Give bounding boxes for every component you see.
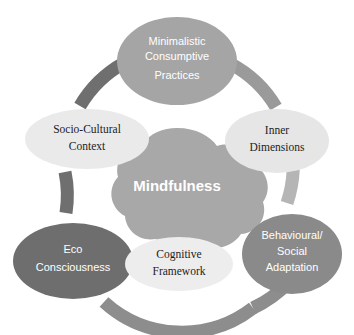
node-inner-dimensions[interactable]: Inner Dimensions xyxy=(225,109,329,173)
arc-top-left-segment xyxy=(80,63,124,106)
node-label-line-2: Context xyxy=(69,140,106,152)
node-ellipse xyxy=(25,109,149,169)
node-eco-consciousness[interactable]: Eco Consciousness xyxy=(13,223,133,299)
node-label-line-1: Inner xyxy=(265,124,289,136)
node-label-line-3: Practices xyxy=(154,69,200,81)
node-label-line-2: Consumptive xyxy=(145,50,209,62)
node-behavioural-social-adaptation[interactable]: Behavioural/ Social Adaptation xyxy=(242,214,342,294)
node-label-line-1: Cognitive xyxy=(156,248,201,261)
arc-top-right-segment xyxy=(231,64,276,107)
mindfulness-cycle-diagram: Mindfulness Minimalistic Consumptive Pra… xyxy=(0,0,354,335)
node-label-line-2: Framework xyxy=(152,265,205,277)
arc-left-segment xyxy=(65,172,67,213)
node-socio-cultural-context[interactable]: Socio-Cultural Context xyxy=(25,109,149,169)
node-label-line-1: Behavioural/ xyxy=(261,229,323,241)
node-label-line-1: Eco xyxy=(64,243,83,255)
node-label-line-2: Consciousness xyxy=(36,261,111,273)
node-minimalistic-consumptive-practices[interactable]: Minimalistic Consumptive Practices xyxy=(117,17,237,105)
node-label-line-1: Minimalistic xyxy=(149,35,206,47)
arc-bottom-segment xyxy=(104,302,253,332)
node-label-line-3: Adaptation xyxy=(266,261,319,273)
node-label-line-2: Dimensions xyxy=(250,141,305,153)
node-cognitive-framework[interactable]: Cognitive Framework xyxy=(125,237,233,291)
center-node-label: Mindfulness xyxy=(133,177,221,194)
node-ellipse xyxy=(125,237,233,291)
node-label-line-2: Social xyxy=(277,245,307,257)
diagram-canvas: Mindfulness Minimalistic Consumptive Pra… xyxy=(0,0,354,335)
node-label-line-1: Socio-Cultural xyxy=(53,123,121,135)
